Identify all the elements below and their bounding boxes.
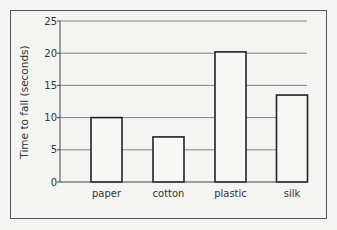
bar-paper: [91, 118, 122, 182]
bar-chart: 0510152025 papercottonplasticsilk Time t…: [0, 0, 337, 230]
x-label-plastic: plastic: [214, 188, 247, 199]
y-tick-label: 10: [44, 112, 57, 123]
x-label-silk: silk: [284, 188, 301, 199]
bar-plastic: [215, 52, 246, 182]
y-tick-label: 15: [44, 80, 57, 91]
y-tick-label: 20: [44, 48, 57, 59]
bar-cotton: [153, 137, 184, 182]
y-tick-label: 0: [51, 177, 57, 188]
y-tick-label: 5: [51, 144, 57, 155]
y-axis-title: Time to fall (seconds): [18, 45, 30, 159]
bars: [91, 52, 308, 182]
x-label-cotton: cotton: [153, 188, 185, 199]
bar-silk: [277, 95, 308, 182]
x-axis-labels: papercottonplasticsilk: [92, 188, 301, 199]
y-axis-ticks: 0510152025: [44, 16, 60, 188]
x-label-paper: paper: [92, 188, 122, 199]
y-tick-label: 25: [44, 16, 57, 27]
